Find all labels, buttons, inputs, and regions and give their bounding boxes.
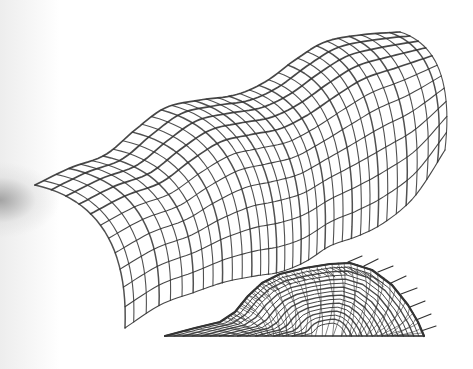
dome-radial-tick xyxy=(391,276,406,283)
dome-radial-tick xyxy=(378,266,393,272)
dome-radial-tick xyxy=(348,256,362,262)
dome-radial-tick xyxy=(416,314,431,320)
dome-radial-tick xyxy=(401,288,417,294)
wireframe-drawing xyxy=(0,0,473,369)
dome-radial-tick xyxy=(421,326,436,331)
dome-radial-tick xyxy=(410,301,425,307)
dome-radial-tick xyxy=(364,259,378,266)
figure-canvas xyxy=(0,0,473,369)
